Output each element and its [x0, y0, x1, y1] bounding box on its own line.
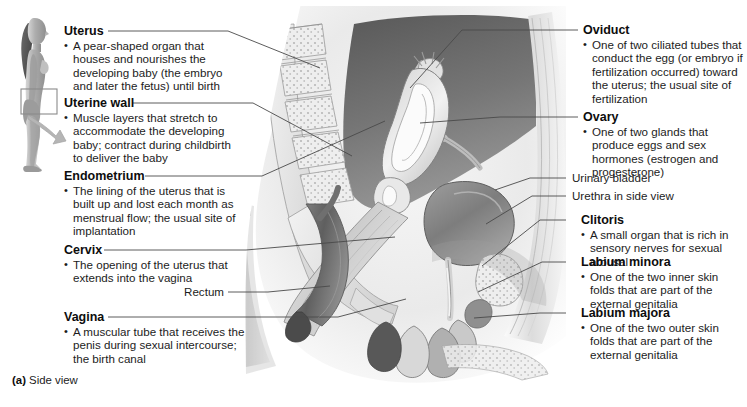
callout-term: Ovary	[583, 110, 747, 124]
callout-term: Oviduct	[583, 23, 745, 37]
callout-description: One of the two outer skin folds that are…	[581, 321, 743, 361]
callout-term: Labium majora	[581, 306, 743, 320]
callout-term: Uterine wall	[64, 96, 236, 110]
callout-term: Labium minora	[581, 255, 741, 269]
callout-description: A muscular tube that receives the penis …	[64, 325, 246, 365]
callout-labium-majora: Labium majora One of the two outer skin …	[581, 306, 743, 361]
callout-description: The opening of the uterus that extends i…	[64, 258, 244, 285]
label-urethra-side-view: Urethra in side view	[572, 189, 674, 202]
callout-term: Uterus	[64, 24, 244, 38]
anatomy-figure: Uterus A pear-shaped organ that houses a…	[0, 0, 747, 407]
callout-term: Clitoris	[581, 213, 746, 227]
callout-list: The opening of the uterus that extends i…	[64, 258, 244, 285]
caption-text: Side view	[29, 374, 78, 386]
callout-vagina: Vagina A muscular tube that receives the…	[64, 310, 246, 365]
callout-uterus: Uterus A pear-shaped organ that houses a…	[64, 24, 244, 93]
callout-term: Vagina	[64, 310, 246, 324]
callout-list: The lining of the uterus that is built u…	[64, 184, 244, 238]
callout-cervix: Cervix The opening of the uterus that ex…	[64, 243, 244, 285]
callout-ovary: Ovary One of two glands that produce egg…	[583, 110, 747, 179]
sagittal-section-illustration	[236, 6, 566, 384]
callout-list: A pear-shaped organ that houses and nour…	[64, 39, 244, 93]
callout-list: A muscular tube that receives the penis …	[64, 325, 246, 365]
callout-term: Cervix	[64, 243, 244, 257]
callout-list: One of two ciliated tubes that conduct t…	[583, 38, 745, 105]
callout-description: A pear-shaped organ that houses and nour…	[64, 39, 244, 93]
callout-description: One of two ciliated tubes that conduct t…	[583, 38, 745, 105]
label-text: Urinary bladder	[572, 171, 651, 184]
body-orientation-inset	[6, 14, 68, 174]
caption-tag: (a)	[12, 374, 26, 386]
callout-oviduct: Oviduct One of two ciliated tubes that c…	[583, 23, 745, 105]
callout-list: Muscle layers that stretch to accommodat…	[64, 111, 236, 165]
callout-description: One of the two inner skin folds that are…	[581, 270, 741, 310]
callout-term: Endometrium	[64, 169, 244, 183]
callout-uterine-wall: Uterine wall Muscle layers that stretch …	[64, 96, 236, 165]
callout-list: One of the two inner skin folds that are…	[581, 270, 741, 310]
callout-labium-minora: Labium minora One of the two inner skin …	[581, 255, 741, 310]
figure-caption: (a) Side view	[12, 374, 78, 386]
callout-endometrium: Endometrium The lining of the uterus tha…	[64, 169, 244, 238]
head	[28, 18, 46, 45]
callout-description: The lining of the uterus that is built u…	[64, 184, 244, 238]
label-text: Rectum	[184, 285, 224, 298]
callout-description: Muscle layers that stretch to accommodat…	[64, 111, 236, 165]
label-rectum: Rectum	[128, 285, 224, 298]
callout-list: One of the two outer skin folds that are…	[581, 321, 743, 361]
label-text: Urethra in side view	[572, 189, 674, 202]
label-urinary-bladder: Urinary bladder	[572, 171, 651, 184]
